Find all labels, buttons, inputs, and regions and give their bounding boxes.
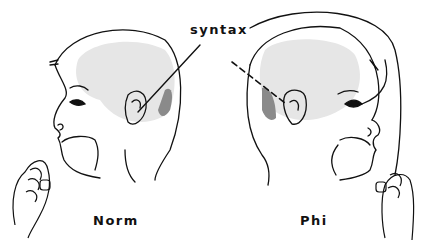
left-hand — [13, 161, 50, 238]
left-head — [50, 30, 200, 182]
right-hand — [376, 173, 414, 240]
syntax-label: syntax — [190, 22, 248, 37]
right-head — [232, 12, 401, 185]
phi-label: Phi — [300, 213, 328, 228]
norm-label: Norm — [93, 213, 139, 228]
